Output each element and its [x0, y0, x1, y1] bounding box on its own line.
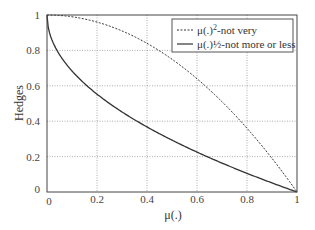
x-tick-label: 0.4: [140, 193, 154, 205]
legend: μ(.)2-not very μ(.)½-not more or less: [172, 19, 295, 52]
x-axis-label: μ(.): [164, 208, 181, 222]
x-tick-label: 0: [46, 195, 52, 207]
y-axis-label: Hedges: [12, 85, 26, 121]
x-tick-label: 0.6: [190, 193, 204, 205]
x-tick-label: 0.8: [240, 193, 254, 205]
x-tick-label: 0.2: [90, 193, 104, 205]
y-tick-label: 0.6: [26, 80, 40, 92]
legend-label-more-or-less: μ(.)½-not more or less: [197, 38, 295, 51]
legend-label-not-very: μ(.)2-not very: [197, 23, 257, 37]
y-tick-label: 0.4: [26, 115, 40, 127]
y-tick-label: 0: [35, 183, 41, 195]
y-axis-ticks: 00.20.40.60.81: [26, 9, 40, 195]
chart-canvas: 00.20.40.60.81 00.20.40.60.81 μ(.) Hedge…: [0, 0, 315, 230]
x-tick-label: 1: [294, 193, 300, 205]
y-tick-label: 1: [35, 9, 41, 21]
x-axis-ticks: 00.20.40.60.81: [46, 193, 300, 207]
y-tick-label: 0.2: [26, 151, 40, 163]
y-tick-label: 0.8: [26, 44, 40, 56]
